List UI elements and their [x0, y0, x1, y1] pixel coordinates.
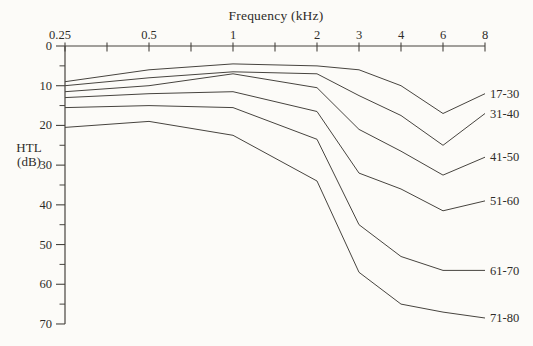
- series-label-51-60: 51-60: [490, 194, 519, 208]
- y-tick-label-40: 40: [40, 198, 53, 212]
- x-tick-label-3: 3: [356, 28, 362, 42]
- series-label-61-70: 61-70: [490, 264, 519, 278]
- y-axis-title: HTL (dB): [8, 141, 50, 169]
- series-label-17-30: 17-30: [490, 87, 519, 101]
- curve-71-80: [65, 121, 485, 318]
- curve-31-40: [65, 72, 485, 146]
- x-tick-label-1: 1: [230, 28, 236, 42]
- x-axis-title: Frequency (kHz): [216, 8, 336, 24]
- series-label-41-50: 41-50: [490, 150, 519, 164]
- htl-by-age-chart: 0.250.512346801020304050607017-3031-4041…: [0, 0, 533, 346]
- curve-51-60: [65, 92, 485, 211]
- y-axis-title-line1: HTL: [8, 141, 50, 155]
- series-label-31-40: 31-40: [490, 107, 519, 121]
- y-tick-label-60: 60: [40, 277, 53, 291]
- y-tick-label-70: 70: [40, 317, 53, 331]
- x-tick-label-0.25: 0.25: [49, 28, 71, 42]
- y-tick-label-20: 20: [40, 118, 53, 132]
- curve-41-50: [65, 74, 485, 175]
- chart-canvas: 0.250.512346801020304050607017-3031-4041…: [0, 0, 533, 346]
- x-tick-label-6: 6: [440, 28, 446, 42]
- y-tick-label-50: 50: [40, 238, 53, 252]
- x-tick-label-2: 2: [314, 28, 320, 42]
- x-tick-label-8: 8: [482, 28, 488, 42]
- y-axis-title-line2: (dB): [8, 155, 50, 169]
- y-tick-label-0: 0: [46, 39, 52, 53]
- x-tick-label-4: 4: [398, 28, 405, 42]
- y-tick-label-10: 10: [40, 79, 53, 93]
- x-tick-label-0.5: 0.5: [141, 28, 157, 42]
- series-label-71-80: 71-80: [490, 311, 519, 325]
